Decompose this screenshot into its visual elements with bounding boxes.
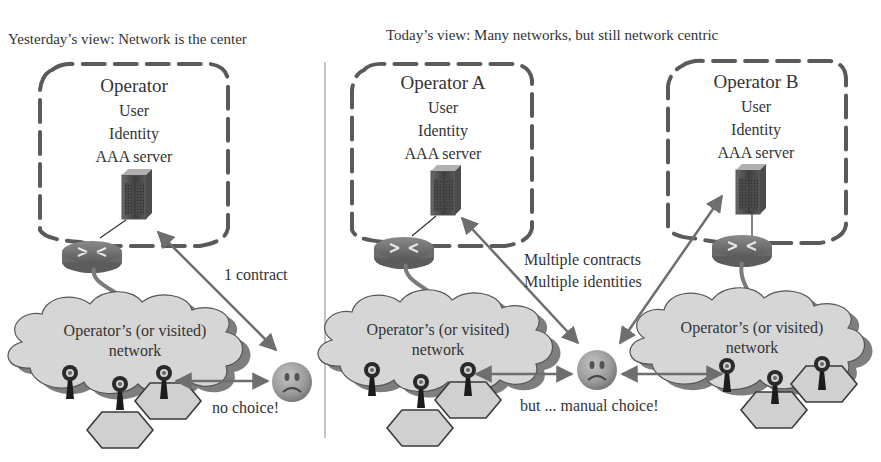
choice-label: no choice! [212, 399, 279, 416]
hexagon-cell-icon [87, 412, 153, 448]
cloud-a-label-2: network [412, 341, 464, 358]
choice-label: but ... manual choice! [520, 397, 659, 414]
operator-b-identity: Identity [731, 121, 781, 139]
aaa-server-icon [736, 164, 766, 214]
aaa-server-icon [122, 169, 152, 219]
operator-aaa: AAA server [96, 148, 174, 165]
contract-label: 1 contract [224, 266, 288, 283]
operator-user: User [119, 102, 150, 119]
operator-b-user: User [741, 98, 772, 115]
left-panel-title: Yesterday’s view: Network is the center [8, 31, 247, 47]
cloud-label-1: Operator’s (or visited) [64, 322, 207, 340]
operator-b-aaa: AAA server [718, 144, 796, 161]
right-panel-title: Today’s view: Many networks, but still n… [386, 27, 719, 43]
operator-a-name: Operator A [401, 72, 486, 93]
operator-b-name: Operator B [714, 71, 799, 92]
aaa-server-icon [431, 165, 461, 215]
cloud-b-label-2: network [726, 339, 778, 356]
operator-name: Operator [100, 75, 168, 96]
hexagon-cell-icon [387, 410, 453, 446]
right-panel: Today’s view: Many networks, but still n… [318, 27, 872, 446]
operator-identity: Identity [109, 125, 159, 143]
sad-face-icon [272, 362, 312, 402]
contracts-label-2: Multiple identities [524, 273, 642, 291]
diagram-canvas: Yesterday’s view: Network is the center … [0, 0, 881, 462]
cloud-label-2: network [109, 342, 161, 359]
contracts-label-1: Multiple contracts [524, 251, 641, 269]
operator-a-aaa: AAA server [405, 145, 483, 162]
cloud-a-label-1: Operator’s (or visited) [367, 321, 510, 339]
operator-a-user: User [428, 99, 459, 116]
operator-a-identity: Identity [418, 122, 468, 140]
left-panel: Yesterday’s view: Network is the center … [8, 31, 312, 448]
hexagon-cell-icon [135, 383, 201, 419]
sad-face-icon [577, 350, 617, 390]
cloud-b-label-1: Operator’s (or visited) [681, 319, 824, 337]
